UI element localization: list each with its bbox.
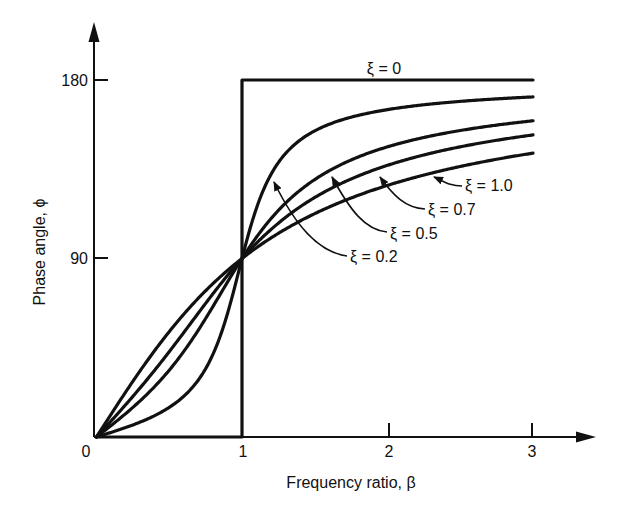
label-zeta-0-2: ξ = 0.2	[350, 248, 398, 266]
x-axis	[94, 423, 596, 443]
curve-0-5	[97, 121, 534, 437]
curve-0	[97, 80, 534, 437]
x-tick-label-2: 2	[385, 443, 394, 460]
curves-group	[97, 80, 534, 437]
label-zeta-0: ξ = 0	[367, 60, 401, 78]
x-axis-title: Frequency ratio, β	[286, 474, 415, 491]
label-zeta-1-0: ξ = 1.0	[465, 177, 513, 195]
x-tick-label-0: 0	[82, 443, 91, 460]
leader-arrow-zeta-1-0	[434, 177, 462, 186]
x-tick-label-1: 1	[239, 443, 248, 460]
y-axis	[89, 22, 109, 437]
label-zeta-0-7: ξ = 0.7	[428, 201, 476, 219]
y-tick-label-90: 90	[70, 250, 88, 267]
curve-0-2	[97, 97, 534, 437]
phase-angle-chart: 180 90 0 1 2 3 Frequency ratio, β Phase …	[0, 0, 626, 516]
y-tick-label-180: 180	[61, 72, 88, 89]
x-tick-label-3: 3	[528, 443, 537, 460]
x-axis-arrow-icon	[576, 432, 596, 443]
y-axis-arrow-icon	[89, 22, 100, 42]
y-axis-title: Phase angle, ϕ	[31, 199, 48, 306]
label-zeta-0-5: ξ = 0.5	[390, 225, 438, 243]
